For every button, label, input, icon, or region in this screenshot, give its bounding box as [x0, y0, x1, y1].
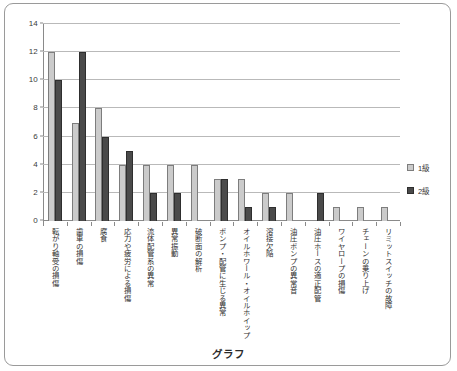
x-label-cell: 破断面の解析: [186, 227, 210, 345]
bar-series1: [119, 165, 126, 221]
bar-series1: [143, 165, 150, 221]
bar-series1: [167, 165, 174, 221]
legend-item[interactable]: 1級: [407, 162, 453, 173]
bar-series2: [79, 52, 86, 221]
x-axis-category-label: オイルホワール・オイルホイップ: [241, 227, 249, 338]
x-axis-category-label: 溶接欠陥: [265, 227, 273, 257]
x-axis-category-label: 異常振動: [170, 227, 178, 257]
y-tick-label: 4: [33, 159, 38, 168]
x-tick-mark: [257, 222, 258, 226]
bar-series1: [357, 207, 364, 221]
x-axis-category-label: 腐食: [99, 227, 107, 242]
bar-group: [305, 24, 329, 221]
x-axis-category-label: リミットスイッチの故障: [384, 227, 392, 308]
bar-series2: [126, 151, 133, 221]
x-axis-category-label: ポンプ・配管に生じる異常: [218, 227, 226, 316]
bar-series1: [48, 52, 55, 221]
bar-group: [114, 24, 138, 221]
bar-series1: [214, 179, 221, 221]
x-label-cell: チェーンの乗り上げ: [352, 227, 376, 345]
x-axis-category-label: 油圧ポンプの異常音: [289, 227, 297, 294]
bar-group: [138, 24, 162, 221]
bar-group: [281, 24, 305, 221]
bar-group: [43, 24, 67, 221]
bar-group: [257, 24, 281, 221]
bar-series1: [191, 165, 198, 221]
x-tick-mark: [162, 222, 163, 226]
bar-group: [67, 24, 91, 221]
x-axis-category-label: 油圧ホースの適正配管: [313, 227, 321, 301]
bar-series2: [174, 193, 181, 221]
y-tick-label: 0: [33, 216, 38, 225]
bar-series2: [102, 137, 109, 221]
legend-swatch-icon: [407, 164, 414, 171]
x-tick-mark: [305, 222, 306, 226]
chart-title: グラフ: [5, 346, 452, 361]
x-axis-category-label: 破断面の解析: [194, 227, 202, 271]
bar-group: [376, 24, 400, 221]
x-tick-mark: [329, 222, 330, 226]
bar-group: [162, 24, 186, 221]
bar-group: [91, 24, 115, 221]
x-tick-mark: [400, 222, 401, 226]
bar-series2: [269, 207, 276, 221]
x-label-cell: 油圧ホースの適正配管: [305, 227, 329, 345]
x-tick-mark: [91, 222, 92, 226]
legend-label: 2級: [418, 185, 429, 196]
x-axis-category-label: 流体配管系の異常: [146, 227, 154, 286]
x-label-cell: オイルホワール・オイルホイップ: [233, 227, 257, 345]
x-tick-mark: [376, 222, 377, 226]
bar-series1: [333, 207, 340, 221]
x-axis-category-label: 転がり軸受の損傷: [51, 227, 59, 286]
x-label-cell: 応力や疲労による損傷: [114, 227, 138, 345]
x-label-cell: 溶接欠陥: [257, 227, 281, 345]
x-axis-category-label: 歯車の損傷: [75, 227, 83, 264]
bar-group: [210, 24, 234, 221]
x-label-cell: 流体配管系の異常: [138, 227, 162, 345]
x-label-cell: 腐食: [91, 227, 115, 345]
x-axis-category-label: チェーンの乗り上げ: [360, 227, 368, 294]
y-tick-label: 10: [29, 75, 38, 84]
legend-item[interactable]: 2級: [407, 185, 453, 196]
bar-group: [329, 24, 353, 221]
x-tick-mark: [281, 222, 282, 226]
x-tick-mark: [186, 222, 187, 226]
x-axis-category-label: ワイヤロープの損傷: [337, 227, 345, 294]
bar-series1: [286, 193, 293, 221]
bar-series2: [245, 207, 252, 221]
x-axis-labels: 転がり軸受の損傷歯車の損傷腐食応力や疲労による損傷流体配管系の異常異常振動破断面…: [43, 227, 400, 345]
x-label-cell: 歯車の損傷: [67, 227, 91, 345]
bar-series2: [55, 80, 62, 221]
bar-series1: [95, 108, 102, 221]
x-tick-mark: [233, 222, 234, 226]
x-tick-mark: [138, 222, 139, 226]
x-tick-mark: [210, 222, 211, 226]
bar-group-container: [43, 24, 400, 221]
y-tick-label: 6: [33, 131, 38, 140]
bar-group: [233, 24, 257, 221]
x-label-cell: ワイヤロープの損傷: [329, 227, 353, 345]
bar-group: [352, 24, 376, 221]
bar-group: [186, 24, 210, 221]
bar-series1: [381, 207, 388, 221]
x-label-cell: ポンプ・配管に生じる異常: [210, 227, 234, 345]
y-tick-label: 12: [29, 47, 38, 56]
y-tick-label: 2: [33, 187, 38, 196]
x-label-cell: 油圧ポンプの異常音: [281, 227, 305, 345]
bar-series1: [72, 123, 79, 222]
y-tick-label: 14: [29, 19, 38, 28]
plot-area: 02468101214: [43, 24, 400, 221]
x-tick-mark: [114, 222, 115, 226]
x-tick-mark: [67, 222, 68, 226]
x-label-cell: 異常振動: [162, 227, 186, 345]
x-tick-mark: [352, 222, 353, 226]
x-tick-mark: [43, 222, 44, 226]
bar-series1: [262, 193, 269, 221]
legend: 1級2級: [407, 162, 453, 208]
bar-series2: [150, 193, 157, 221]
x-axis-category-label: 応力や疲労による損傷: [122, 227, 130, 301]
x-axis-ticks: [43, 222, 400, 226]
y-tick-label: 8: [33, 103, 38, 112]
bar-series1: [238, 179, 245, 221]
x-label-cell: 転がり軸受の損傷: [43, 227, 67, 345]
